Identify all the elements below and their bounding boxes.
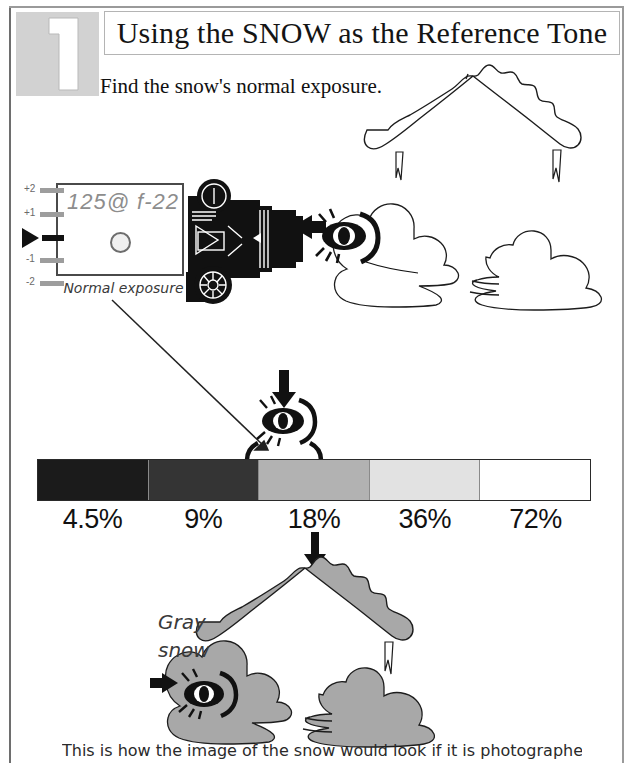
camera-detail-lines [192,184,268,298]
meter-tick-plus1 [40,212,64,217]
snow-drift-right-white-icon [470,231,601,310]
percent-label-2: 18% [259,504,370,538]
artwork-layer [0,0,628,763]
grayscale-segment-0 [38,460,148,500]
percent-label-0: 4.5% [37,504,148,538]
gray-snow-line-1: Gray [158,608,210,636]
arrow-down-to-eye-icon [272,370,296,408]
meter-tick-label-plus1: +1 [24,207,35,218]
snow-drift-left-white-icon [333,204,459,307]
step-number-box [16,12,99,96]
meter-tick-minus1 [40,258,64,263]
bottom-caption: This is how the image of the snow would … [62,741,582,760]
light-meter: +2 +1 -1 -2 125@ f-22 Normal exposure [12,180,188,305]
percent-label-1: 9% [148,504,259,538]
arrow-left-to-camera-icon [292,215,326,239]
snow-roof-gray-icon [197,557,414,641]
camera-icon [186,179,303,304]
snow-roof-white-icon [365,65,582,149]
page-border-right [622,6,624,763]
meter-tick-plus2 [40,188,64,193]
grayscale-segment-4 [479,460,590,500]
meter-pointer-icon [22,228,39,248]
gray-snow-annotation: Gray snow [158,608,210,664]
page-subtitle: Find the snow's normal exposure. [100,74,382,99]
arrow-exposure-to-strip-icon [112,300,268,450]
icicle-left-white-icon [396,152,403,180]
eye-on-strip-icon [247,396,321,460]
step-number-glyph [16,12,99,96]
percent-label-4: 72% [480,504,591,538]
icicle-right-white-icon [553,150,561,182]
eye-metering-icon [316,209,418,273]
meter-center-dot-icon [110,232,131,253]
page-border-left [9,6,11,763]
grayscale-strip [37,459,591,501]
icicle-left-gray-icon [228,644,235,672]
grayscale-segment-2 [258,460,369,500]
meter-tick-label-minus1: -1 [26,253,35,264]
meter-tick-label-plus2: +2 [24,183,35,194]
title-band: Using the SNOW as the Reference Tone [104,11,620,55]
illustration-page: Using the SNOW as the Reference Tone Fin… [0,0,628,763]
icicle-right-gray-icon [385,642,393,674]
meter-tick-zero [42,235,64,241]
percent-label-3: 36% [369,504,480,538]
snow-drift-right-gray-icon [303,668,434,747]
page-title: Using the SNOW as the Reference Tone [105,12,619,54]
grayscale-percent-labels: 4.5% 9% 18% 36% 72% [37,504,591,538]
grayscale-segment-1 [148,460,259,500]
meter-tick-label-minus2: -2 [26,276,35,287]
gray-snow-line-2: snow [158,636,210,664]
grayscale-segment-3 [369,460,480,500]
meter-reading: 125@ f-22 [62,188,184,216]
meter-caption: Normal exposure [56,280,191,296]
page-border-top [9,6,624,8]
eye-viewing-gray-snow-icon [150,669,236,719]
